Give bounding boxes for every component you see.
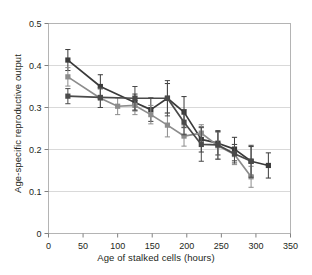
x-axis-tick-label: 100	[110, 241, 125, 251]
data-point-marker	[148, 112, 153, 117]
data-point-marker	[248, 159, 253, 164]
data-point-marker	[98, 95, 103, 100]
data-point-marker	[232, 151, 237, 156]
y-axis-tick-label: 0.5	[29, 19, 42, 29]
data-point-marker	[215, 142, 220, 147]
data-point-marker	[266, 163, 271, 168]
x-axis-title: Age of stalked cells (hours)	[0, 252, 312, 263]
y-axis-tick-label: 0	[36, 229, 41, 239]
x-axis-tick-label: 200	[179, 241, 194, 251]
data-point-marker	[199, 142, 204, 147]
chart-figure: 00.10.20.30.40.5050100150200250300350 Ag…	[0, 0, 312, 275]
y-axis-tick-label: 0.4	[29, 61, 42, 71]
data-series	[65, 81, 253, 178]
x-axis-tick-label: 50	[78, 241, 88, 251]
x-axis-tick-label: 0	[46, 241, 51, 251]
data-point-marker	[165, 123, 170, 128]
x-axis-tick-label: 150	[145, 241, 160, 251]
chart-plot-area: 00.10.20.30.40.5050100150200250300350	[0, 0, 312, 275]
plot-frame	[49, 24, 291, 234]
data-series	[65, 68, 253, 188]
x-axis-tick-label: 350	[283, 241, 298, 251]
x-axis-tick-label: 250	[214, 241, 229, 251]
y-axis-tick-label: 0.3	[29, 103, 42, 113]
data-point-marker	[65, 94, 70, 99]
data-point-marker	[165, 96, 170, 101]
series-line	[68, 77, 251, 177]
data-point-marker	[132, 96, 137, 101]
data-point-marker	[65, 74, 70, 79]
data-point-marker	[115, 104, 120, 109]
series-line	[68, 96, 251, 161]
data-point-marker	[181, 120, 186, 125]
data-point-marker	[65, 57, 70, 62]
y-axis-tick-label: 0.2	[29, 145, 42, 155]
x-axis-tick-label: 300	[248, 241, 263, 251]
y-axis-title: Age-specific reproductive output	[12, 29, 23, 219]
y-axis-tick-label: 0.1	[29, 187, 42, 197]
